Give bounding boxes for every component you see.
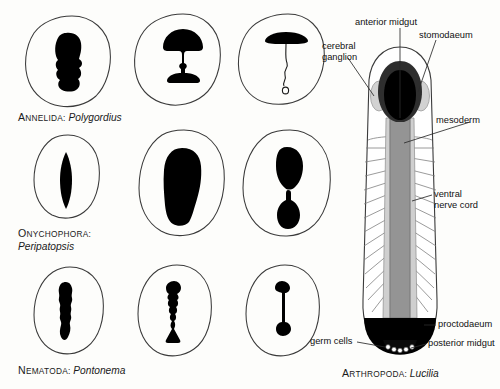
label-cerebral-ganglion-line1: cerebral [322, 41, 357, 52]
annelida-stage-2-blob [163, 29, 203, 83]
caption-onychophora-taxon: ONYCHOPHORA: [18, 228, 91, 241]
caption-arthropoda-taxon: ARTHROPODA: [342, 369, 410, 379]
onychophora-stage-3-dumbbell [276, 147, 303, 229]
embryo-panels-svg [0, 0, 500, 389]
nematoda-stage-3-thread [275, 281, 291, 336]
caption-arthropoda-genus: Lucilia [410, 368, 439, 379]
caption-onychophora: ONYCHOPHORA: Peripatopsis [18, 228, 91, 252]
label-cerebral-ganglion-line2: ganglion [322, 52, 357, 63]
label-proctodaeum: proctodaeum [438, 319, 492, 330]
arthropod-mesoderm [390, 107, 410, 318]
label-ventral-nerve-cord-line2: nerve cord [434, 200, 478, 211]
caption-nematoda-genus: Pontonema [73, 365, 125, 376]
label-mesoderm: mesoderm [436, 115, 480, 126]
caption-arthropoda: ARTHROPODA: Lucilia [342, 367, 439, 379]
onychophora-stage-1-spindle [60, 152, 72, 209]
caption-nematoda: NEMATODA: Pontonema [18, 364, 125, 376]
caption-annelida-taxon: ANNELIDA: [18, 113, 68, 123]
label-stomodaeum: stomodaeum [419, 30, 473, 41]
caption-annelida-genus: Polygordius [68, 112, 121, 123]
label-cerebral-ganglion: cerebral ganglion [322, 41, 357, 62]
label-anterior-midgut: anterior midgut [355, 17, 417, 28]
label-ventral-nerve-cord-line1: ventral [434, 189, 478, 200]
figure-embryo-comparison: ANNELIDA: Polygordius ONYCHOPHORA: Perip… [0, 0, 500, 389]
caption-onychophora-genus: Peripatopsis [18, 241, 91, 253]
label-germ-cells: germ cells [310, 336, 352, 347]
onychophora-stage-2-boot [164, 148, 202, 226]
label-posterior-midgut: posterior midgut [428, 338, 495, 349]
annelida-stage-3-outline [238, 14, 324, 104]
caption-annelida: ANNELIDA: Polygordius [18, 111, 122, 123]
nematoda-stage-2-rod [166, 281, 181, 343]
nematoda-stage-1-rod [59, 282, 73, 340]
annelida-stage-3-thread [282, 44, 288, 94]
label-ventral-nerve-cord: ventral nerve cord [434, 189, 478, 210]
caption-nematoda-taxon: NEMATODA: [18, 366, 73, 376]
annelida-stage-1-blob [55, 33, 82, 92]
annelida-stage-2-outline [135, 14, 221, 105]
annelida-stage-3-umbrella [265, 32, 308, 44]
